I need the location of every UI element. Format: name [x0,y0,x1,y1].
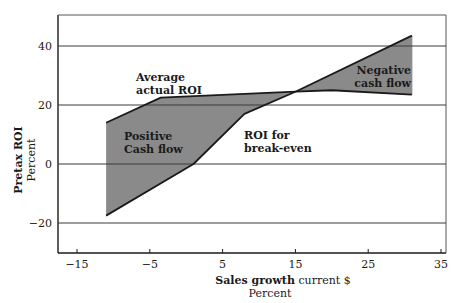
y-axis-unit: Percent [25,138,38,181]
y-axis-ticks: 40200−20 [29,40,52,230]
x-axis-label-rest: current $ [295,274,351,287]
break-even-roi-annotation: ROI forbreak-even [244,129,312,155]
x-axis-label-bold: Sales growth [215,274,295,287]
roi-chart: 40200−20 −15−55152535 Averageactual ROIP… [0,0,460,303]
x-tick-label: 15 [288,258,302,271]
y-tick-label: −20 [29,217,52,230]
x-tick-label: −15 [65,258,88,271]
x-tick-label: −5 [142,258,158,271]
x-tick-label: 5 [219,258,226,271]
y-tick-label: 0 [45,158,52,171]
average-actual-roi-annotation: Averageactual ROI [135,71,202,97]
y-tick-label: 20 [38,99,52,112]
x-axis-unit: Percent [249,287,292,300]
x-axis-title: Sales growth current $ [215,274,350,287]
y-axis-label: Pretax ROI [12,126,25,194]
x-tick-label: 25 [361,258,375,271]
y-tick-label: 40 [38,40,52,53]
y-axis-title: Pretax ROI [12,126,25,194]
x-tick-label: 35 [434,258,448,271]
y-axis-unit-label: Percent [25,138,38,181]
negative-cash-flow-annotation: Negativecash flow [354,64,411,90]
